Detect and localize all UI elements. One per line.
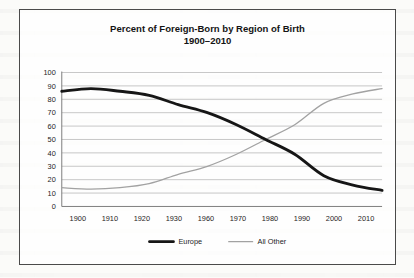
x-tick-1900: 1900: [70, 214, 86, 223]
y-tick-90: 90: [48, 82, 56, 91]
legend-label-europe: Europe: [178, 237, 202, 246]
legend-label-all-other: All Other: [258, 237, 287, 246]
x-tick-1970: 1970: [230, 214, 246, 223]
chart-subtitle: 1900–2010: [184, 35, 232, 46]
line-chart: Percent of Foreign-Born by Region of Bir…: [20, 10, 395, 264]
x-tick-1920: 1920: [134, 214, 150, 223]
chart-legend: Europe All Other: [150, 237, 287, 246]
x-tick-1980: 1980: [262, 214, 278, 223]
y-tick-80: 80: [48, 95, 56, 104]
x-tick-1910: 1910: [102, 214, 118, 223]
x-tick-2010: 2010: [358, 214, 374, 223]
chart-title: Percent of Foreign-Born by Region of Bir…: [110, 23, 305, 34]
y-tick-70: 70: [48, 108, 56, 117]
y-tick-40: 40: [48, 149, 56, 158]
y-axis-tick-labels: 0102030405060708090100: [44, 68, 56, 211]
y-tick-50: 50: [48, 135, 56, 144]
series-line-all-other: [62, 89, 382, 189]
x-tick-1990: 1990: [294, 214, 310, 223]
y-tick-10: 10: [48, 189, 56, 198]
x-tick-1960: 1960: [198, 214, 214, 223]
page-background: Percent of Foreign-Born by Region of Bir…: [0, 0, 414, 278]
x-axis-tick-labels: 1900191019201930196019701980199020002010: [70, 214, 375, 223]
y-tick-60: 60: [48, 122, 56, 131]
y-tick-30: 30: [48, 162, 56, 171]
y-tick-100: 100: [44, 68, 56, 77]
x-tick-2000: 2000: [326, 214, 342, 223]
y-tick-20: 20: [48, 175, 56, 184]
y-tick-0: 0: [52, 202, 56, 211]
x-tick-1930: 1930: [166, 214, 182, 223]
chart-figure: Percent of Foreign-Born by Region of Bir…: [19, 9, 396, 265]
